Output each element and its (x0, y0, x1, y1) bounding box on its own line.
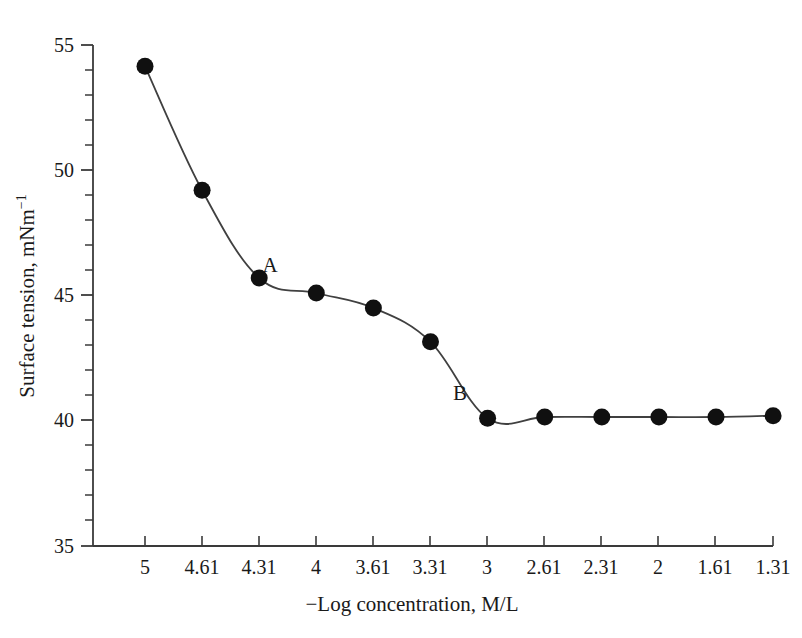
x-tick-label-4: 4 (311, 556, 321, 578)
chart-background (0, 0, 802, 638)
y-axis-title-text: Surface tension, mNm (15, 209, 39, 397)
x-tick-label-261: 2.61 (527, 556, 562, 578)
y-tick-label-40: 40 (54, 409, 74, 431)
y-tick-label-45: 45 (54, 284, 74, 306)
x-tick-label-431: 4.31 (242, 556, 277, 578)
x-axis-title: −Log concentration, M/L (305, 592, 518, 616)
data-point (650, 409, 667, 426)
data-point (536, 409, 553, 426)
chart-figure: 55 50 45 40 35 Surface tension, mNm−1 (0, 0, 802, 638)
y-tick-label-50: 50 (54, 159, 74, 181)
data-point (137, 58, 154, 75)
data-point (194, 182, 211, 199)
x-tick-label-231: 2.31 (584, 556, 619, 578)
x-tick-label-5: 5 (140, 556, 150, 578)
surface-tension-line-chart: 55 50 45 40 35 Surface tension, mNm−1 (0, 0, 802, 638)
annotation-label-b: B (453, 381, 467, 405)
x-tick-label-3: 3 (482, 556, 492, 578)
data-point (708, 409, 725, 426)
y-tick-label-55: 55 (54, 34, 74, 56)
svg-text:Surface tension, mNm−1: Surface tension, mNm−1 (14, 194, 39, 397)
y-tick-label-35: 35 (54, 535, 74, 557)
x-tick-label-161: 1.61 (698, 556, 733, 578)
x-tick-label-131: 1.31 (756, 556, 791, 578)
annotation-label-a: A (262, 253, 278, 277)
y-axis-title: Surface tension, mNm−1 (14, 194, 39, 397)
x-tick-label-461: 4.61 (185, 556, 220, 578)
x-tick-label-2: 2 (653, 556, 663, 578)
x-tick-label-331: 3.31 (413, 556, 448, 578)
data-point (479, 410, 496, 427)
data-point (593, 409, 610, 426)
data-point (765, 407, 782, 424)
x-tick-label-361: 3.61 (356, 556, 391, 578)
y-axis-title-exponent: −1 (14, 194, 29, 209)
data-point (422, 333, 439, 350)
data-point (365, 300, 382, 317)
data-point (308, 285, 325, 302)
